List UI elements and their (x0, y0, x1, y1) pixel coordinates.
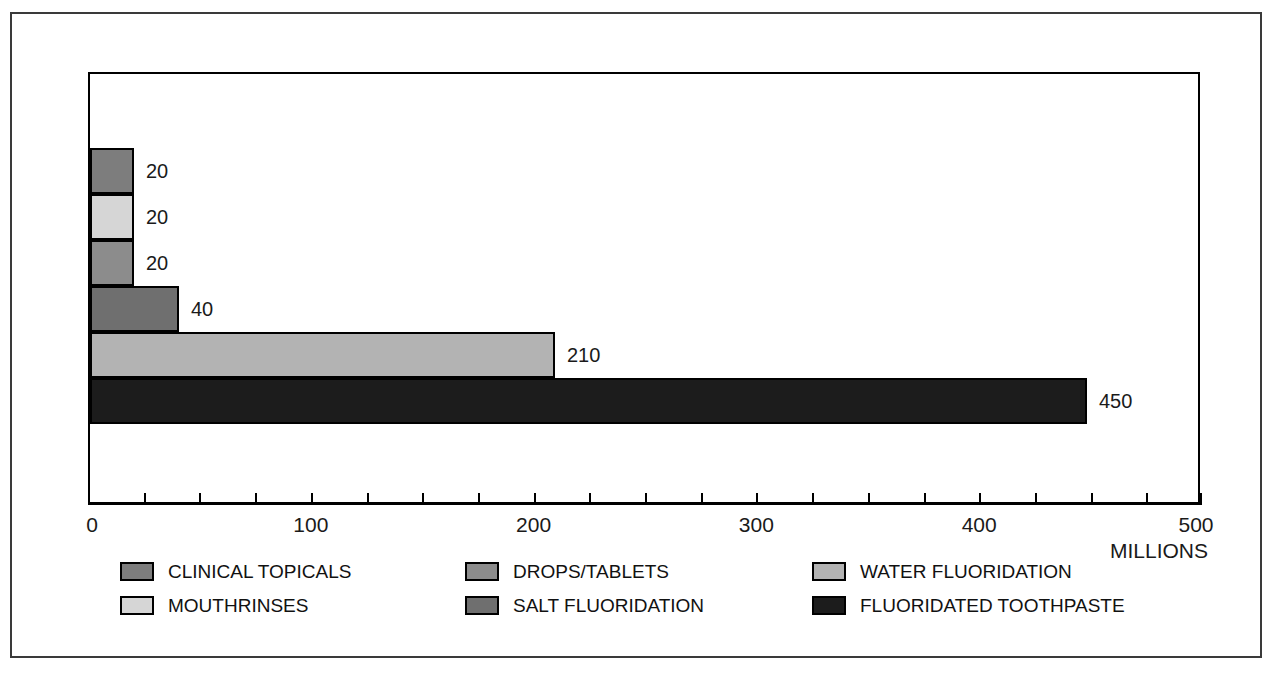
axis-tick-major (311, 493, 313, 505)
legend-label: MOUTHRINSES (168, 596, 308, 615)
axis-tick-minor (478, 493, 480, 502)
chart-legend: CLINICAL TOPICALSMOUTHRINSESDROPS/TABLET… (120, 558, 1180, 620)
legend-label: WATER FLUORIDATION (860, 562, 1072, 581)
bar-value-label: 40 (191, 299, 213, 319)
axis-tick-label: 100 (293, 514, 328, 535)
x-axis-tick-labels: MILLIONS 0100200300400500 (88, 514, 1202, 542)
legend-item[interactable]: DROPS/TABLETS (465, 558, 669, 584)
axis-tick-label: 200 (516, 514, 551, 535)
bar-row: 450 (90, 378, 1198, 424)
axis-tick-label: 500 (1178, 514, 1213, 535)
axis-tick-major (979, 493, 981, 505)
legend-swatch (812, 562, 846, 581)
bar-row: 20 (90, 240, 1198, 286)
legend-swatch (812, 596, 846, 615)
axis-tick-minor (701, 493, 703, 502)
axis-tick-minor (422, 493, 424, 502)
axis-tick-label: 0 (86, 514, 98, 535)
axis-tick-minor (868, 493, 870, 502)
axis-tick-major (1200, 493, 1202, 505)
legend-swatch (465, 562, 499, 581)
x-axis-line (88, 502, 1202, 505)
legend-label: SALT FLUORIDATION (513, 596, 704, 615)
bar-value-label: 20 (146, 253, 168, 273)
axis-tick-minor (255, 493, 257, 502)
axis-tick-minor (812, 493, 814, 502)
bar-row: 20 (90, 148, 1198, 194)
legend-item[interactable]: FLUORIDATED TOOTHPASTE (812, 592, 1125, 618)
bar[interactable] (90, 240, 134, 286)
axis-tick-label: 300 (739, 514, 774, 535)
axis-tick-minor (924, 493, 926, 502)
bar-row: 20 (90, 194, 1198, 240)
legend-label: DROPS/TABLETS (513, 562, 669, 581)
axis-tick-minor (1035, 493, 1037, 502)
bar[interactable] (90, 194, 134, 240)
legend-label: CLINICAL TOPICALS (168, 562, 351, 581)
bar[interactable] (90, 148, 134, 194)
plot-area: 20202040210450 (88, 72, 1200, 504)
bar-row: 40 (90, 286, 1198, 332)
axis-tick-minor (199, 493, 201, 502)
legend-item[interactable]: CLINICAL TOPICALS (120, 558, 351, 584)
axis-tick-major (756, 493, 758, 505)
bar[interactable] (90, 378, 1087, 424)
bar-value-label: 450 (1099, 391, 1132, 411)
axis-tick-minor (144, 493, 146, 502)
bar-value-label: 20 (146, 207, 168, 227)
axis-tick-label: 400 (962, 514, 997, 535)
axis-tick-minor (645, 493, 647, 502)
axis-tick-minor (367, 493, 369, 502)
legend-item[interactable]: MOUTHRINSES (120, 592, 308, 618)
axis-tick-minor (1091, 493, 1093, 502)
legend-swatch (120, 562, 154, 581)
axis-tick-minor (589, 493, 591, 502)
legend-label: FLUORIDATED TOOTHPASTE (860, 596, 1125, 615)
figure-container: 20202040210450 MILLIONS 0100200300400500… (10, 12, 1262, 658)
axis-tick-minor (1146, 493, 1148, 502)
legend-item[interactable]: WATER FLUORIDATION (812, 558, 1072, 584)
bar-value-label: 210 (567, 345, 600, 365)
axis-tick-major (88, 493, 90, 505)
bar-row: 210 (90, 332, 1198, 378)
bars-layer: 20202040210450 (90, 74, 1198, 502)
bar-value-label: 20 (146, 161, 168, 181)
legend-swatch (465, 596, 499, 615)
legend-item[interactable]: SALT FLUORIDATION (465, 592, 704, 618)
legend-swatch (120, 596, 154, 615)
axis-tick-major (534, 493, 536, 505)
bar[interactable] (90, 332, 555, 378)
bar[interactable] (90, 286, 179, 332)
